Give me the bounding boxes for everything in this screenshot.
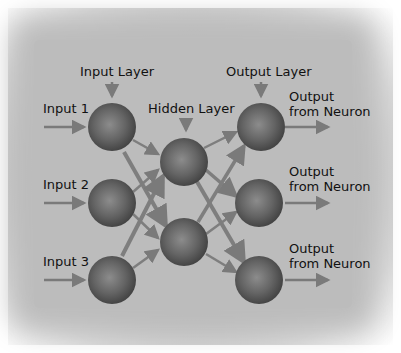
output-3-label: Output from Neuron (289, 241, 371, 271)
output-2-line2: from Neuron (289, 179, 371, 194)
neuron-input-1 (88, 103, 136, 151)
neuron-output-1 (237, 103, 285, 151)
input-1-label: Input 1 (43, 101, 89, 116)
output-1-line2: from Neuron (289, 104, 371, 119)
hidden-layer-neurons (160, 138, 208, 266)
input-2-label: Input 2 (43, 177, 89, 192)
neuron-hidden-1 (160, 138, 208, 186)
hidden-layer-label: Hidden Layer (148, 101, 235, 116)
neural-network-diagram: Input Layer Hidden Layer Output Layer In… (0, 0, 401, 353)
output-layer-label: Output Layer (226, 64, 312, 79)
output-3-line2: from Neuron (289, 256, 371, 271)
input-layer-label: Input Layer (80, 64, 154, 79)
output-1-label: Output from Neuron (289, 89, 371, 119)
output-2-line1: Output (289, 164, 371, 179)
input-3-label: Input 3 (43, 254, 89, 269)
neuron-input-2 (88, 179, 136, 227)
input-layer-neurons (88, 103, 136, 304)
output-layer-neurons (235, 103, 285, 304)
output-1-line1: Output (289, 89, 371, 104)
neuron-output-3 (235, 256, 283, 304)
neuron-hidden-2 (160, 218, 208, 266)
neuron-input-3 (88, 256, 136, 304)
neuron-output-2 (235, 179, 283, 227)
output-2-label: Output from Neuron (289, 164, 371, 194)
output-3-line1: Output (289, 241, 371, 256)
